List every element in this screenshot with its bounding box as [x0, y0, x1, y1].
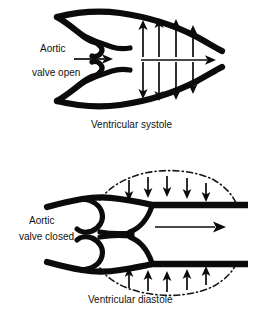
systole-label-line-1: Aortic: [40, 43, 66, 54]
diastole-label-line-2: valve closed: [19, 231, 74, 242]
aortic-valve-diagram: Aortic valve open Ventricular systole: [0, 0, 253, 311]
systole-label-line-2: valve open: [32, 67, 80, 78]
diastole-coaptation-lower: [100, 235, 132, 237]
diastole-caption: Ventricular diastole: [88, 294, 173, 305]
diastole-label-line-1: Aortic: [29, 215, 55, 226]
systole-caption: Ventricular systole: [91, 119, 173, 130]
